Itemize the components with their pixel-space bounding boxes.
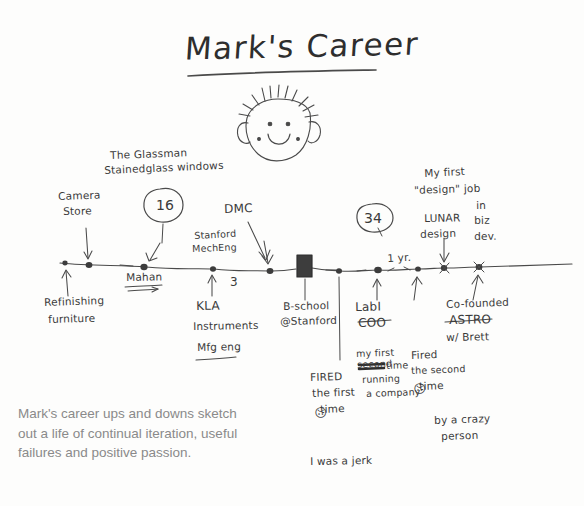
label-lunar-line2: "design" job	[414, 183, 481, 197]
badge-age-34: 34	[364, 210, 382, 226]
label-fired-second-line5: person	[441, 430, 479, 443]
label-astro-line3: w/ Brett	[446, 331, 489, 343]
label-fired-first-line2: the first	[312, 387, 355, 400]
arrow-stanford-mecheng	[262, 241, 273, 264]
arrow-lunar	[440, 238, 449, 262]
label-three: 3	[230, 276, 238, 289]
label-mahan: Mahan	[126, 271, 162, 283]
label-lunar-line6: biz	[474, 215, 490, 227]
label-lunar-line1: My first	[424, 166, 465, 180]
label-one-year: 1 yr.	[387, 252, 412, 265]
label-lunar-line7: dev.	[474, 231, 497, 243]
label-lunar-line4: design	[420, 228, 456, 241]
label-first-running-line3: running	[362, 374, 400, 386]
title-underline	[188, 70, 376, 76]
mark-face-doodle	[237, 85, 320, 161]
label-fired-second-line1: Fired	[411, 349, 438, 362]
label-stanford-line2: MechEng	[192, 242, 237, 254]
arrow-refinishing	[62, 270, 71, 296]
bschool-block	[297, 255, 312, 277]
sad-face-icon-second: ☹	[413, 381, 426, 394]
label-kla-line1: KLA	[196, 300, 220, 314]
sad-face-icon-first: ☹	[314, 405, 327, 418]
arrow-fired-first	[339, 277, 340, 360]
arrow-fired-second	[412, 277, 422, 300]
page-title: Mark's Career	[184, 26, 420, 67]
label-camera-store-line1: Camera	[58, 190, 101, 203]
label-astro-line1: Co-founded	[446, 297, 509, 311]
kla-underline	[196, 357, 236, 360]
label-dmc: DMC	[224, 202, 253, 216]
label-stanford-line1: Stanford	[194, 229, 237, 242]
label-i-was-a-jerk: I was a jerk	[310, 455, 372, 468]
caption-text: Mark's career ups and downs sketch out a…	[18, 404, 253, 463]
badge-age-16: 16	[156, 197, 174, 213]
label-camera-store-line2: Store	[63, 205, 92, 217]
arrow-camera-store	[84, 228, 92, 259]
arrow-kla	[208, 275, 216, 296]
label-astro-line2: ASTRO	[449, 313, 491, 327]
career-sketch-canvas: Mark's Career The Glassman Stainedglass …	[0, 0, 584, 506]
label-first-running-time: time	[386, 360, 409, 371]
label-labi-line1: LabI	[355, 301, 381, 315]
label-refinishing-line1: Refinishing	[44, 295, 104, 309]
label-fired-second-line4: by a crazy	[434, 413, 491, 427]
label-lunar-line5: in	[476, 200, 486, 212]
arrow-labi-coo	[373, 279, 381, 300]
label-bschool-line1: B-school	[283, 300, 329, 313]
arrow-glassman	[146, 243, 160, 261]
label-bschool-line2: @Stanford	[280, 315, 337, 328]
label-kla-line3: Mfg eng	[197, 341, 241, 354]
label-fired-first-line1: FIRED	[310, 371, 343, 384]
label-fired-second-line2: the second	[411, 364, 466, 377]
label-lunar-line3: LUNAR	[424, 212, 461, 224]
mahan-underline	[125, 285, 162, 292]
label-refinishing-line2: furniture	[48, 313, 95, 326]
label-kla-line2: Instruments	[193, 320, 259, 333]
label-labi-line2: COO	[358, 317, 386, 331]
